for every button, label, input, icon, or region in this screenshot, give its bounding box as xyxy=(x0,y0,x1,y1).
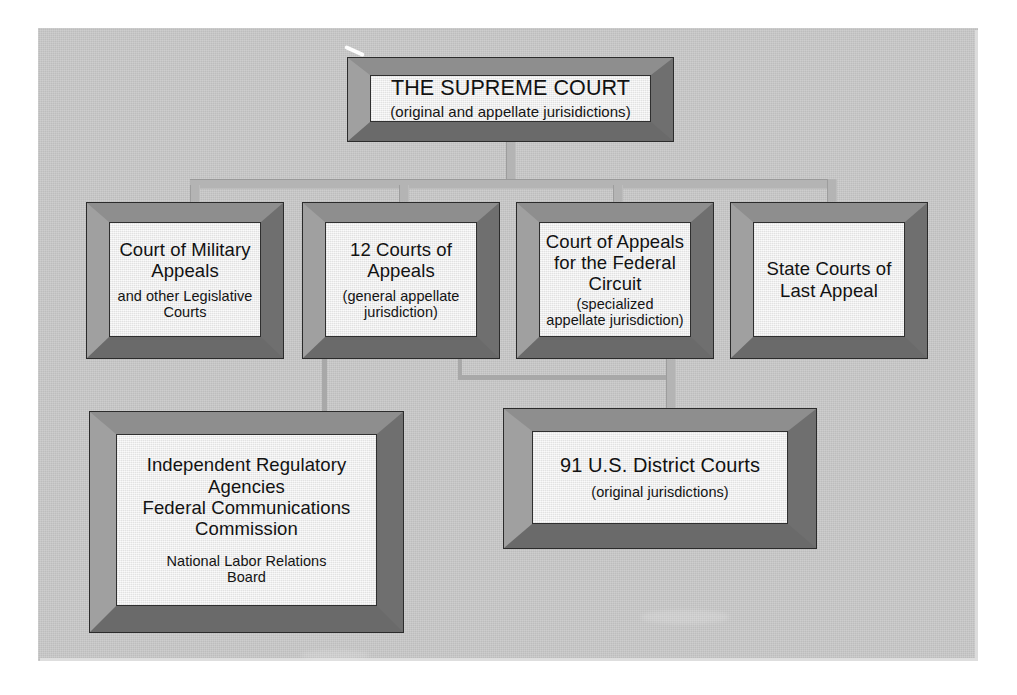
state-courts-title-line2: Last Appeal xyxy=(780,280,878,301)
military-appeals-title-line2: Appeals xyxy=(151,260,219,281)
agencies-title-line2: Agencies xyxy=(208,476,285,497)
connector-twelve-courts-stub-right xyxy=(458,375,672,380)
federal-circuit-title-line2: for the Federal xyxy=(554,252,676,273)
connector-level2-bus xyxy=(190,179,835,189)
node-inner: 91 U.S. District Courts (original jurisd… xyxy=(532,431,788,524)
node-frame: 91 U.S. District Courts (original jurisd… xyxy=(504,409,816,548)
diagram-canvas: THE SUPREME COURT (original and appellat… xyxy=(0,0,1017,695)
twelve-courts-title-line1: 12 Courts of xyxy=(350,239,452,260)
supreme-court-subtitle: (original and appellate jurisidictions) xyxy=(390,104,630,121)
federal-circuit-subtitle-line1: (specialized xyxy=(576,296,653,312)
agencies-title-line4: Commission xyxy=(195,518,298,539)
node-twelve-courts-of-appeals[interactable]: 12 Courts of Appeals (general appellate … xyxy=(303,203,499,358)
military-appeals-subtitle-line2: Courts xyxy=(163,304,206,320)
node-frame: 12 Courts of Appeals (general appellate … xyxy=(303,203,499,358)
twelve-courts-subtitle-line1: (general appellate xyxy=(343,288,460,304)
node-frame: Court of Military Appeals and other Legi… xyxy=(87,203,283,358)
node-independent-regulatory-agencies[interactable]: Independent Regulatory Agencies Federal … xyxy=(90,412,403,632)
node-frame: Court of Appeals for the Federal Circuit… xyxy=(517,203,713,358)
federal-circuit-title-line3: Circuit xyxy=(588,273,641,294)
node-state-courts-of-last-appeal[interactable]: State Courts of Last Appeal xyxy=(731,203,927,358)
military-appeals-subtitle-line1: and other Legislative xyxy=(118,288,253,304)
node-supreme-court[interactable]: THE SUPREME COURT (original and appellat… xyxy=(348,58,673,141)
panel-bottom-edge xyxy=(40,658,978,661)
node-frame: State Courts of Last Appeal xyxy=(731,203,927,358)
federal-circuit-title-line1: Court of Appeals xyxy=(546,231,684,252)
panel-smudge xyxy=(300,650,370,660)
node-court-of-appeals-federal-circuit[interactable]: Court of Appeals for the Federal Circuit… xyxy=(517,203,713,358)
agencies-subtitle-line1: National Labor Relations xyxy=(167,553,327,569)
node-inner: THE SUPREME COURT (original and appellat… xyxy=(370,75,651,122)
panel-right-edge xyxy=(975,30,978,660)
district-courts-subtitle: (original jurisdictions) xyxy=(591,484,728,500)
node-inner: 12 Courts of Appeals (general appellate … xyxy=(325,222,477,337)
panel-smudge xyxy=(640,610,730,624)
node-district-courts[interactable]: 91 U.S. District Courts (original jurisd… xyxy=(504,409,816,548)
node-court-of-military-appeals[interactable]: Court of Military Appeals and other Legi… xyxy=(87,203,283,358)
military-appeals-title-line1: Court of Military xyxy=(119,239,250,260)
state-courts-title-line1: State Courts of xyxy=(767,258,892,279)
node-inner: Court of Military Appeals and other Legi… xyxy=(109,222,261,337)
supreme-court-title: THE SUPREME COURT xyxy=(391,76,630,101)
twelve-courts-title-line2: Appeals xyxy=(367,260,435,281)
node-inner: Court of Appeals for the Federal Circuit… xyxy=(539,222,691,337)
node-inner: State Courts of Last Appeal xyxy=(753,222,905,337)
node-frame: Independent Regulatory Agencies Federal … xyxy=(90,412,403,632)
district-courts-title: 91 U.S. District Courts xyxy=(560,454,760,477)
agencies-title-line1: Independent Regulatory xyxy=(147,454,347,475)
connector-twelve-courts-to-agencies xyxy=(322,355,327,413)
agencies-title-line3: Federal Communications xyxy=(143,497,351,518)
agencies-subtitle-line2: Board xyxy=(227,569,266,585)
node-inner: Independent Regulatory Agencies Federal … xyxy=(116,434,377,606)
node-frame: THE SUPREME COURT (original and appellat… xyxy=(348,58,673,141)
connector-federal-circuit-to-district xyxy=(666,355,676,413)
twelve-courts-subtitle-line2: jurisdiction) xyxy=(364,304,438,320)
federal-circuit-subtitle-line2: appellate jurisdiction) xyxy=(546,312,683,328)
